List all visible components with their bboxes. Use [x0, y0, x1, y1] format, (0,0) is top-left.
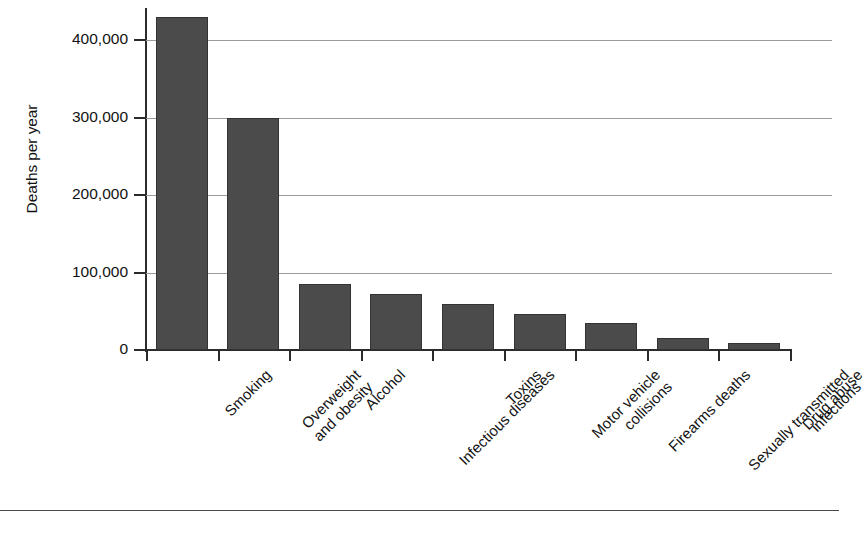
x-axis-tick — [361, 350, 363, 361]
y-axis-tick — [134, 349, 146, 351]
bar — [442, 304, 494, 350]
y-axis-tick — [134, 194, 146, 196]
x-axis-tick — [790, 350, 792, 361]
x-axis-tick — [575, 350, 577, 361]
bar — [370, 294, 422, 350]
y-axis-tick-label: 200,000 — [8, 185, 128, 203]
bar — [585, 323, 637, 350]
y-axis-tick — [134, 272, 146, 274]
bottom-divider — [0, 510, 839, 511]
x-axis-tick-label-line: Infectious diseases — [456, 366, 558, 468]
x-axis-tick — [647, 350, 649, 361]
x-axis-tick — [146, 350, 148, 361]
x-axis-tick-label-line: Firearms deaths — [665, 366, 754, 455]
y-axis-tick — [134, 39, 146, 41]
x-axis-tick — [218, 350, 220, 361]
y-axis-line — [145, 8, 147, 352]
bar — [728, 343, 780, 350]
x-axis-tick-label: Infectious diseases — [456, 366, 558, 468]
y-axis-tick-label: 0 — [8, 340, 128, 358]
bar — [299, 284, 351, 350]
x-axis-tick-label: Motor vehiclecollisions — [588, 366, 675, 453]
bar — [514, 314, 566, 350]
x-axis-tick-label: Overweightand obesity — [298, 366, 376, 444]
x-axis-tick — [718, 350, 720, 361]
y-axis-title: Deaths per year — [23, 59, 41, 259]
bar — [657, 338, 709, 350]
x-axis-tick — [432, 350, 434, 361]
x-axis-tick-label: Smoking — [221, 366, 274, 419]
bar — [227, 118, 279, 351]
x-axis-tick — [289, 350, 291, 361]
x-axis-tick-label: Firearms deaths — [665, 366, 754, 455]
y-axis-tick-label: 100,000 — [8, 263, 128, 281]
bar — [156, 17, 208, 350]
x-axis-tick-label-line: Smoking — [221, 366, 274, 419]
y-axis-tick-label: 400,000 — [8, 30, 128, 48]
y-axis-tick-label: 300,000 — [8, 108, 128, 126]
y-axis-tick — [134, 117, 146, 119]
gridline — [145, 40, 832, 41]
x-axis-tick — [504, 350, 506, 361]
